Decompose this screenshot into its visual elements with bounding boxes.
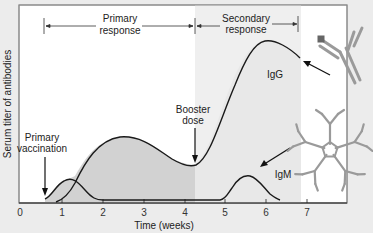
- svg-text:1: 1: [59, 207, 65, 218]
- booster-dose-label-1: Booster: [176, 104, 211, 115]
- secondary-response-label-2: response: [225, 24, 267, 35]
- svg-text:4: 4: [182, 207, 188, 218]
- svg-text:0: 0: [17, 207, 23, 218]
- x-axis-label: Time (weeks): [134, 220, 194, 231]
- primary-response-label-1: Primary: [103, 13, 137, 24]
- x-tick-labels: 0 1 2 3 4 5 6 7: [17, 207, 310, 218]
- igm-label: IgM: [275, 169, 292, 180]
- svg-text:3: 3: [141, 207, 147, 218]
- primary-vaccination-label-1: Primary: [25, 132, 59, 143]
- secondary-response-label-1: Secondary: [222, 13, 270, 24]
- primary-response-label-2: response: [99, 25, 141, 36]
- booster-dose-label-2: dose: [182, 115, 204, 126]
- antibody-response-chart: 0 1 2 3 4 5 6 7 Time (weeks) Serum titer…: [0, 0, 373, 233]
- svg-text:2: 2: [100, 207, 106, 218]
- svg-text:7: 7: [304, 207, 310, 218]
- svg-text:5: 5: [222, 207, 228, 218]
- svg-text:6: 6: [263, 207, 269, 218]
- primary-vaccination-label-2: vaccination: [17, 143, 67, 154]
- y-axis-label: Serum titer of antibodies: [2, 50, 13, 158]
- igg-label: IgG: [267, 69, 283, 80]
